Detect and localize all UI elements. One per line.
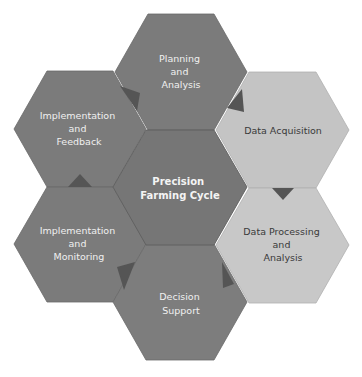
hex-label-line: Data Processing	[243, 226, 319, 237]
center-title-line: Farming Cycle	[140, 190, 220, 201]
hex-label-line: Feedback	[56, 136, 102, 147]
center-title-line: Precision	[152, 176, 204, 187]
hex-label-line: Support	[162, 305, 200, 316]
hex-label-line: Monitoring	[54, 251, 105, 262]
svg-text:Data Acquisition: Data Acquisition	[244, 125, 322, 136]
hex-label-line: and	[69, 238, 87, 249]
precision-farming-cycle-diagram: Planning and Analysis Data Acquisition D…	[0, 0, 362, 377]
hex-label-line: Data Acquisition	[244, 125, 322, 136]
hex-label-line: Analysis	[161, 79, 200, 90]
hex-label-line: Decision	[159, 291, 199, 302]
hex-label-line: Analysis	[263, 252, 302, 263]
hex-label-line: Planning	[159, 53, 200, 64]
hex-label-line: and	[171, 66, 189, 77]
hex-label-line: and	[273, 239, 291, 250]
hex-label-line: and	[69, 123, 87, 134]
hex-label-line: Implementation	[40, 110, 115, 121]
hex-label-line: Implementation	[40, 225, 115, 236]
